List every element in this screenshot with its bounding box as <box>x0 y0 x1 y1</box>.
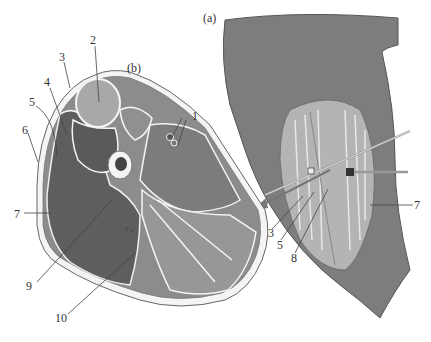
callout-a-3: 3 <box>268 227 274 239</box>
callout-b-7: 7 <box>14 208 20 220</box>
callout-b-10: 10 <box>55 312 67 324</box>
panel-b-label: (b) <box>127 62 141 74</box>
callout-b-5: 5 <box>29 96 35 108</box>
callout-b-4: 4 <box>44 76 50 88</box>
callout-b-2: 2 <box>90 34 96 46</box>
callout-a-8: 8 <box>291 252 297 264</box>
panel-a-label: (a) <box>203 12 216 24</box>
callout-a-7: 7 <box>414 199 420 211</box>
callout-b-3: 3 <box>59 51 65 63</box>
callout-a-5: 5 <box>277 239 283 251</box>
callout-b-6: 6 <box>22 124 28 136</box>
callout-b-1: 1 <box>192 110 198 122</box>
callout-b-9: 9 <box>26 280 32 292</box>
